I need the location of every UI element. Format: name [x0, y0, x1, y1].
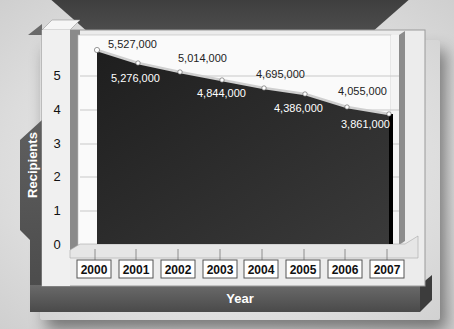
area-chart: 5,527,000 5,276,000 5,014,000 4,844,000 …: [0, 0, 454, 329]
x-axis-title: Year: [226, 291, 253, 306]
x-label-2005: 2005: [290, 263, 317, 277]
data-label-2007: 3,861,000: [341, 118, 390, 130]
data-label-2003: 4,844,000: [197, 87, 246, 99]
x-label-2001: 2001: [123, 263, 150, 277]
y-tick-3: 3: [53, 136, 60, 151]
x-axis-band: [30, 285, 420, 312]
y-tick-5: 5: [53, 68, 60, 83]
x-label-2006: 2006: [332, 263, 359, 277]
x-label-2007: 2007: [374, 263, 401, 277]
data-label-2006: 4,055,000: [338, 85, 387, 97]
y-tick-1: 1: [53, 203, 60, 218]
data-label-2005: 4,386,000: [274, 102, 323, 114]
x-label-2002: 2002: [165, 263, 192, 277]
data-label-2001: 5,276,000: [111, 72, 160, 84]
y-tick-4: 4: [53, 102, 60, 117]
x-label-2000: 2000: [81, 263, 108, 277]
data-label-2004: 4,695,000: [256, 68, 305, 80]
y-axis-title: Recipients: [25, 132, 40, 198]
x-label-2003: 2003: [207, 263, 234, 277]
x-label-2004: 2004: [248, 263, 275, 277]
y-tick-2: 2: [53, 169, 60, 184]
data-label-2002: 5,014,000: [178, 52, 227, 64]
y-tick-0: 0: [53, 237, 60, 252]
data-label-2000: 5,527,000: [108, 38, 157, 50]
